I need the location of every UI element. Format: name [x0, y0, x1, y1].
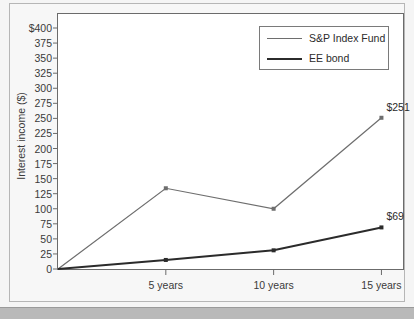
data-series-group: [58, 116, 383, 269]
series-line: [58, 118, 381, 269]
series-point-marker: [272, 248, 276, 252]
window-bottom-strip: [0, 307, 414, 319]
x-tick-label: 5 years: [131, 280, 201, 291]
legend-label-sp: S&P Index Fund: [309, 32, 385, 44]
series-point-marker: [379, 116, 383, 120]
data-point-label: $251: [386, 101, 409, 113]
series-point-marker: [272, 207, 276, 211]
x-tick-label: 10 years: [239, 280, 309, 291]
legend-row-sp: S&P Index Fund: [260, 28, 390, 50]
series-line: [58, 227, 381, 269]
series-point-marker: [164, 186, 168, 190]
legend-swatch-ee: [267, 58, 302, 60]
legend-label-ee: EE bond: [309, 52, 349, 64]
legend-row-ee: EE bond: [260, 48, 390, 70]
data-point-label: $69: [386, 210, 404, 222]
x-tick-label: 15 years: [346, 280, 414, 291]
legend-swatch-sp: [267, 38, 302, 39]
series-point-marker: [164, 258, 168, 262]
series-point-marker: [379, 225, 383, 229]
chart-legend: S&P Index Fund EE bond: [259, 26, 389, 70]
